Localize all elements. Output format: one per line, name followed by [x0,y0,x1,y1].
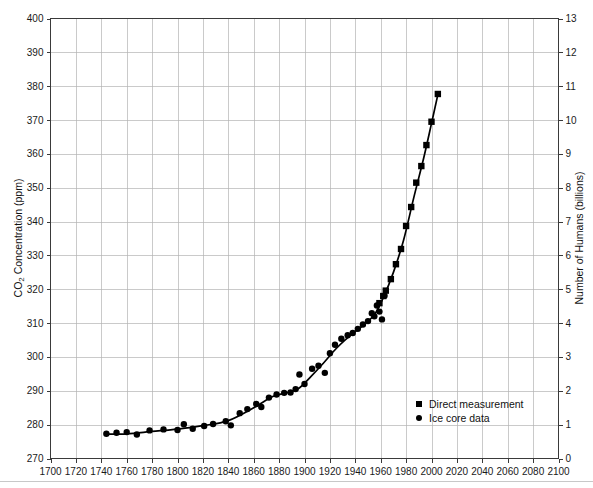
data-point-circle [355,326,361,332]
data-point-square [376,300,382,306]
y-tick-label: 350 [27,182,44,193]
x-tick-label: 1920 [319,466,342,477]
x-tick-label: 1720 [65,466,88,477]
legend-marker-circle [416,415,422,421]
y2-tick-label: 7 [566,216,572,227]
x-tick-label: 1980 [395,466,418,477]
y2-tick-label: 4 [566,318,572,329]
data-point-circle [201,423,207,429]
data-point-circle [379,316,385,322]
data-point-circle [315,363,321,369]
co2-population-chart-figure: 1700172017401760178018001820184018601880… [0,0,593,488]
data-point-circle [103,431,109,437]
y2-tick-label: 9 [566,148,572,159]
data-point-circle [332,342,338,348]
y2-tick-label: 10 [566,115,578,126]
y2-tick-label: 6 [566,250,572,261]
data-point-circle [124,429,130,435]
data-point-circle [273,391,279,397]
x-tick-label: 1740 [90,466,113,477]
data-point-circle [322,370,328,376]
y-tick-label: 300 [27,351,44,362]
data-point-square [435,91,441,97]
y2-tick-label: 12 [566,47,578,58]
data-point-circle [266,394,272,400]
y2-tick-label: 5 [566,284,572,295]
legend-label-2: Ice core data [429,412,490,424]
data-point-circle [190,426,196,432]
data-point-circle [350,330,356,336]
y-tick-label: 320 [27,284,44,295]
data-point-circle [327,350,333,356]
x-tick-label: 1940 [344,466,367,477]
y-tick-label: 380 [27,81,44,92]
y2-tick-label: 13 [566,13,578,24]
y2-tick-label: 1 [566,419,572,430]
x-tick-label: 1820 [192,466,215,477]
y-tick-label: 280 [27,419,44,430]
y-tick-label: 310 [27,318,44,329]
x-tick-label: 1840 [217,466,240,477]
data-point-square [398,246,404,252]
data-point-circle [244,406,250,412]
x-tick-label: 2080 [522,466,545,477]
y-tick-label: 390 [27,47,44,58]
data-point-circle [365,318,371,324]
legend-label-1: Direct measurement [429,398,524,410]
data-point-circle [160,426,166,432]
data-point-circle [237,410,243,416]
data-point-circle [134,431,140,437]
y2-tick-label: 11 [566,81,577,92]
y-tick-label: 340 [27,216,44,227]
data-point-circle [301,381,307,387]
y-tick-label: 370 [27,115,44,126]
y2-tick-label: 0 [566,453,572,464]
data-point-circle [281,390,287,396]
y2-tick-label: 2 [566,385,572,396]
data-point-square [408,204,414,210]
data-point-circle [223,418,229,424]
x-tick-label: 1700 [39,466,62,477]
y-tick-label: 330 [27,250,44,261]
data-point-circle [258,404,264,410]
data-point-circle [174,427,180,433]
data-point-circle [228,422,234,428]
data-point-circle [376,308,382,314]
x-tick-label: 2000 [420,466,443,477]
x-tick-label: 1900 [293,466,316,477]
data-point-circle [146,427,152,433]
data-point-circle [181,421,187,427]
y-tick-label: 360 [27,148,44,159]
x-axis-tick-labels: 1700172017401760178018001820184018601880… [39,466,570,477]
x-tick-label: 1800 [166,466,189,477]
x-tick-label: 1880 [268,466,291,477]
x-tick-label: 1780 [141,466,164,477]
chart-canvas: 1700172017401760178018001820184018601880… [0,0,593,488]
x-tick-label: 1760 [116,466,139,477]
y2-tick-label: 3 [566,351,572,362]
data-point-circle [309,366,315,372]
data-point-square [383,287,389,293]
y-tick-label: 270 [27,453,44,464]
data-point-circle [113,430,119,436]
data-point-circle [210,421,216,427]
data-point-square [388,276,394,282]
y2-tick-label: 8 [566,182,572,193]
y2-axis-title: Number of Humans (billions) [573,171,585,304]
data-point-square [423,142,429,148]
chart-background [0,0,593,488]
x-tick-label: 1960 [370,466,393,477]
data-point-square [393,261,399,267]
y-tick-label: 290 [27,385,44,396]
data-point-square [403,223,409,229]
x-tick-label: 2040 [471,466,494,477]
x-tick-label: 2020 [446,466,469,477]
data-point-circle [338,335,344,341]
x-tick-label: 2100 [547,466,570,477]
data-point-circle [292,386,298,392]
x-tick-label: 2060 [497,466,520,477]
y-tick-label: 400 [27,13,44,24]
data-point-square [413,179,419,185]
data-point-square [428,119,434,125]
data-point-square [418,163,424,169]
